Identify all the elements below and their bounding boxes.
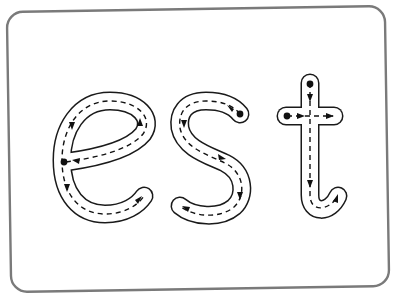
start-dot-icon: [284, 113, 291, 120]
start-dot-icon: [307, 81, 314, 88]
tracing-card: [0, 0, 398, 295]
start-dot-icon: [237, 111, 244, 118]
start-dot-icon: [61, 159, 68, 166]
